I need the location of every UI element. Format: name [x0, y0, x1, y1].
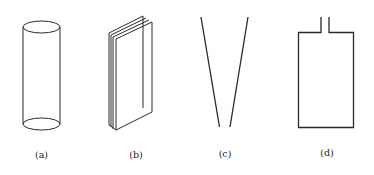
panel-b-stacked-plates: [109, 16, 152, 130]
panel-a-cylinder: [23, 21, 60, 130]
panel-d-container: [299, 17, 354, 128]
panel-d-label: (d): [320, 147, 334, 158]
panel-c-tapered-v: [201, 17, 248, 127]
panel-a-label: (a): [35, 149, 48, 160]
panel-b-label: (b): [129, 149, 143, 160]
figure: (a) (b) (c) (d): [0, 0, 374, 175]
panel-c-label: (c): [219, 148, 232, 159]
